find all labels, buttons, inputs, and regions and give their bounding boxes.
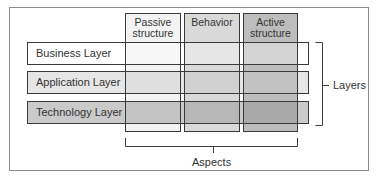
aspects-label: Aspects xyxy=(192,156,231,168)
brackets xyxy=(0,0,377,182)
aspects-bracket-icon xyxy=(126,138,298,153)
layers-label: Layers xyxy=(333,79,366,91)
layers-bracket-icon xyxy=(316,43,330,126)
